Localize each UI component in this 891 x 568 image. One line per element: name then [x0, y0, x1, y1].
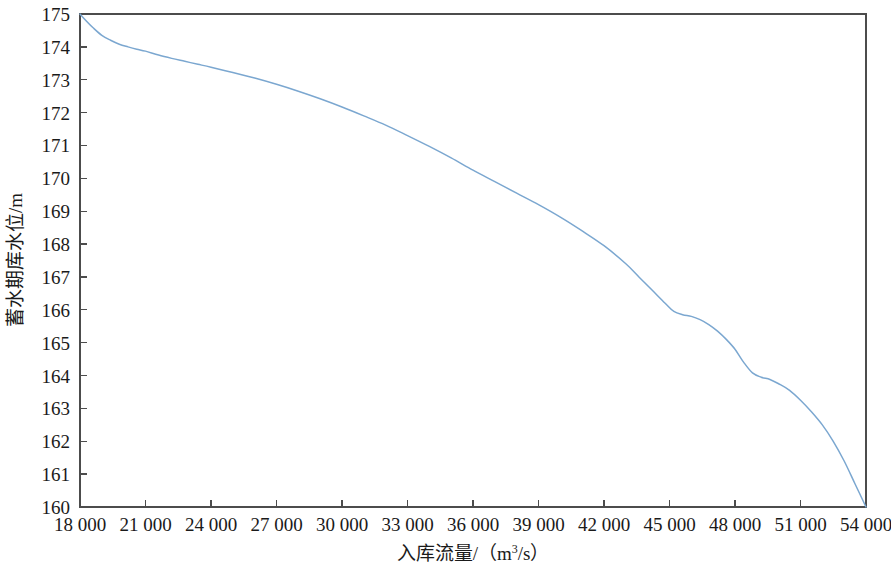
y-tick-label: 173 [42, 70, 71, 91]
x-tick-label: 18 000 [54, 514, 106, 535]
y-tick-label: 175 [42, 4, 71, 25]
x-tick-label: 21 000 [119, 514, 171, 535]
y-tick-label: 165 [42, 333, 71, 354]
x-axis-title-group: 入库流量/（m3/s） [397, 542, 550, 564]
x-axis-title-base: 入库流量/（m [397, 543, 512, 564]
y-axis-tick-labels: 1601611621631641651661671681691701711721… [42, 4, 71, 518]
y-tick-label: 169 [42, 201, 71, 222]
y-tick-label: 174 [42, 37, 71, 58]
y-tick-label: 161 [42, 464, 71, 485]
chart-figure: 1601611621631641651661671681691701711721… [0, 0, 891, 568]
y-tick-label: 164 [42, 366, 71, 387]
x-tick-label: 39 000 [512, 514, 564, 535]
y-tick-label: 171 [42, 135, 71, 156]
plot-frame [80, 14, 866, 507]
x-tick-label: 36 000 [447, 514, 499, 535]
y-axis-title: 蓄水期库水位/m [5, 193, 26, 327]
plot-area-border [80, 14, 866, 507]
chart-canvas: 1601611621631641651661671681691701711721… [0, 0, 891, 568]
x-axis-tick-labels: 18 00021 00024 00027 00030 00033 00036 0… [54, 514, 891, 535]
y-tick-label: 166 [42, 300, 71, 321]
x-tick-label: 33 000 [381, 514, 433, 535]
y-tick-label: 167 [42, 267, 71, 288]
water-level-curve [80, 14, 866, 507]
x-axis-ticks [146, 500, 801, 507]
data-series-group [80, 14, 866, 507]
x-axis-title: 入库流量/（m3/s） [397, 542, 550, 564]
y-tick-label: 170 [42, 168, 71, 189]
x-tick-label: 45 000 [643, 514, 695, 535]
y-tick-label: 163 [42, 398, 71, 419]
x-tick-label: 24 000 [185, 514, 237, 535]
y-axis-ticks [80, 47, 87, 474]
y-tick-label: 172 [42, 103, 71, 124]
x-tick-label: 51 000 [774, 514, 826, 535]
x-tick-label: 30 000 [316, 514, 368, 535]
y-axis-title-group: 蓄水期库水位/m [5, 193, 26, 327]
x-tick-label: 27 000 [250, 514, 302, 535]
y-tick-label: 162 [42, 431, 71, 452]
x-tick-label: 54 000 [840, 514, 891, 535]
x-tick-label: 48 000 [709, 514, 761, 535]
y-tick-label: 168 [42, 234, 71, 255]
x-axis-title-tail: /s） [518, 543, 550, 564]
x-tick-label: 42 000 [578, 514, 630, 535]
